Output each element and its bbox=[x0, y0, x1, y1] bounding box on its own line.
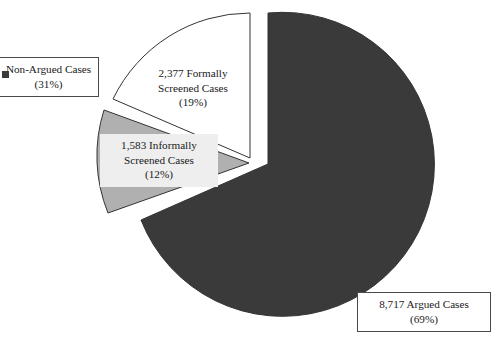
callout-formally-percent: (19%) bbox=[147, 95, 239, 110]
pie-slices-canvas bbox=[0, 0, 499, 338]
callout-informally-screened-cases: 1,583 Informally Screened Cases (12%) bbox=[100, 134, 218, 187]
callout-formally-line1: 2,377 Formally bbox=[147, 66, 239, 81]
callout-argued-line1: 8,717 Argued Cases bbox=[364, 297, 484, 312]
callout-formally-screened-cases: 2,377 Formally Screened Cases (19%) bbox=[141, 62, 245, 115]
callout-informally-line2: Screened Cases bbox=[106, 153, 212, 168]
legend-swatch-icon bbox=[2, 71, 9, 78]
callout-non-argued-percent: (31%) bbox=[5, 77, 92, 92]
callout-informally-percent: (12%) bbox=[106, 167, 212, 182]
callout-argued-percent: (69%) bbox=[364, 312, 484, 327]
callout-non-argued-label: Non-Argued Cases bbox=[5, 62, 92, 77]
callout-informally-line1: 1,583 Informally bbox=[106, 138, 212, 153]
callout-argued-cases: 8,717 Argued Cases (69%) bbox=[357, 292, 491, 332]
pie-chart: Non-Argued Cases (31%) 2,377 Formally Sc… bbox=[0, 0, 499, 338]
callout-formally-line2: Screened Cases bbox=[147, 81, 239, 96]
callout-non-argued-cases: Non-Argued Cases (31%) bbox=[0, 57, 99, 97]
